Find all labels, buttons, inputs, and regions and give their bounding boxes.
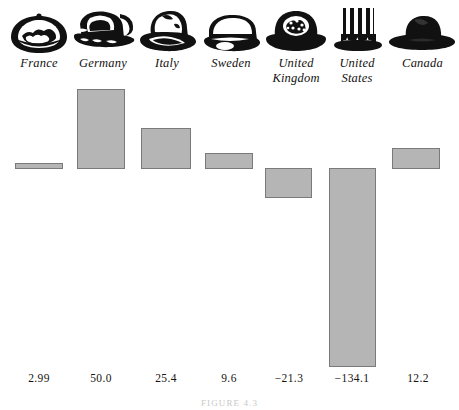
value-label-row: 2.99 50.0 25.4 9.6 −21.3 −134.1 12.2 bbox=[0, 370, 459, 388]
value-germany: 50.0 bbox=[63, 370, 139, 386]
figure-caption: FIGURE 4.3 bbox=[0, 398, 459, 410]
bar-canada bbox=[392, 148, 440, 169]
value-canada: 12.2 bbox=[381, 370, 455, 386]
bar-france bbox=[15, 163, 63, 169]
bar-united-kingdom bbox=[265, 168, 312, 198]
bar-plot-area bbox=[0, 0, 459, 410]
figure-container: France Germany Italy Sweden United Kingd… bbox=[0, 0, 459, 410]
bar-united-states bbox=[329, 168, 376, 367]
bar-germany bbox=[77, 89, 125, 169]
bar-sweden bbox=[205, 153, 253, 169]
value-united-states: −134.1 bbox=[315, 370, 389, 386]
bar-italy bbox=[141, 128, 191, 169]
